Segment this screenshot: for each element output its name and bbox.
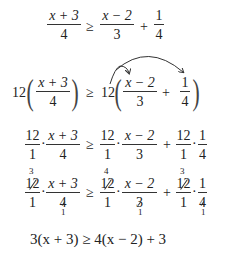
denominator: 1 [104,195,111,210]
plus-operator: + [163,138,171,152]
step3-coef-fraction-1: 12 1 [25,128,40,162]
multiply-dot: · [116,137,121,151]
relation-symbol: ≥ [86,186,94,200]
reduced-denominator: 1 [61,208,66,217]
reduced-numerator: 3 [180,167,185,176]
multiply-dot: · [192,137,197,151]
fraction-bar [176,144,191,145]
fraction-bar [100,192,115,193]
relation-symbol: ≥ [86,138,94,152]
step4-fraction-1: x + 3 4 [46,176,80,210]
fraction-bar [46,192,80,193]
multiply-dot: · [41,185,46,199]
numerator: x + 3 [48,176,78,191]
distribution-arrows-icon [0,0,232,254]
cancelled-numerator: 12 [101,176,115,191]
denominator: 4 [199,147,206,162]
denominator: 3 [136,147,143,162]
denominator: 1 [104,147,111,162]
fraction-bar [198,192,207,193]
cancelled-numerator: 12 [26,176,40,191]
fraction-bar [25,192,40,193]
fraction-bar [198,144,207,145]
fraction-bar [176,192,191,193]
numerator: 12 [26,128,40,143]
step3-fraction-2: x − 2 3 [122,128,157,162]
fraction-bar [100,144,115,145]
denominator: 1 [180,195,187,210]
step3-fraction-1: x + 3 4 [46,128,80,162]
multiply-dot: · [116,185,121,199]
step3-fraction-3: 1 4 [198,128,207,162]
cancelled-numerator: 12 [177,176,191,191]
reduced-numerator: 4 [104,167,109,176]
numerator: 1 [199,128,206,143]
numerator: x − 2 [125,176,155,191]
reduced-numerator: 3 [29,167,34,176]
fraction-bar [122,144,157,145]
numerator: 12 [101,128,115,143]
reduced-denominator: 1 [201,208,206,217]
step3-coef-fraction-3: 12 1 [176,128,191,162]
step4-fraction-3: 1 4 [198,176,207,210]
multiply-dot: · [192,185,197,199]
step4-fraction-2: x − 2 3 [122,176,157,210]
denominator: 1 [29,147,36,162]
numerator: 1 [199,176,206,191]
multiply-dot: · [41,137,46,151]
step-5-equation: 3(x + 3) ≥ 4(x − 2) + 3 [30,232,166,246]
fraction-bar [122,192,157,193]
fraction-bar [25,144,40,145]
step4-coef-fraction-2: 12 1 [100,176,115,210]
step4-coef-fraction-3: 12 1 [176,176,191,210]
numerator: x + 3 [48,128,78,143]
fraction-bar [46,144,80,145]
step3-coef-fraction-2: 12 1 [100,128,115,162]
plus-operator: + [163,186,171,200]
numerator: x − 2 [125,128,155,143]
numerator: 12 [177,128,191,143]
step4-coef-fraction-1: 12 1 [25,176,40,210]
denominator: 4 [60,147,67,162]
denominator: 1 [29,195,36,210]
reduced-denominator: 1 [138,208,143,217]
denominator: 1 [180,147,187,162]
